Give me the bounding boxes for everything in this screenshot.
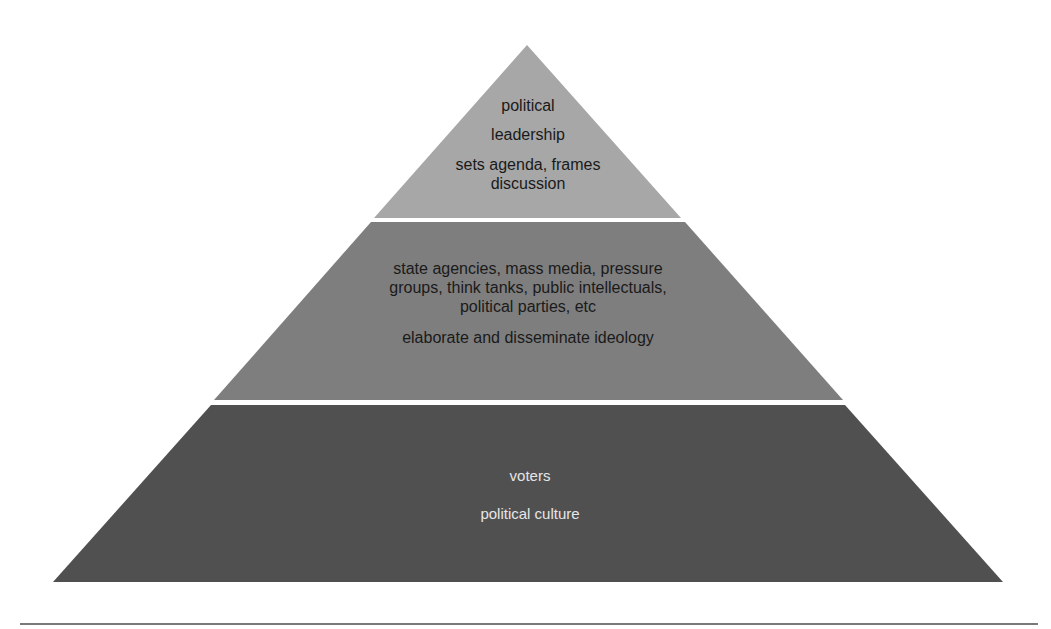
- bottom-tier-role: political culture: [380, 504, 680, 523]
- bottom-rule-divider: [20, 623, 1038, 625]
- middle-tier-role: elaborate and disseminate ideology: [300, 328, 756, 347]
- top-tier-title-line2: leadership: [400, 125, 656, 144]
- middle-tier-label: state agencies, mass media, pressure gro…: [300, 259, 756, 347]
- middle-tier-actors-line1: state agencies, mass media, pressure: [300, 259, 756, 278]
- top-tier-role-line2: discussion: [400, 174, 656, 193]
- top-tier-title-line1: political: [400, 96, 656, 115]
- middle-tier-actors-line3: political parties, etc: [300, 297, 756, 316]
- middle-tier-actors-line2: groups, think tanks, public intellectual…: [300, 278, 756, 297]
- top-tier-role-line1: sets agenda, frames: [400, 155, 656, 174]
- bottom-tier-title: voters: [380, 466, 680, 485]
- bottom-tier-label: voters political culture: [380, 466, 680, 523]
- top-tier-label: political leadership sets agenda, frames…: [400, 96, 656, 193]
